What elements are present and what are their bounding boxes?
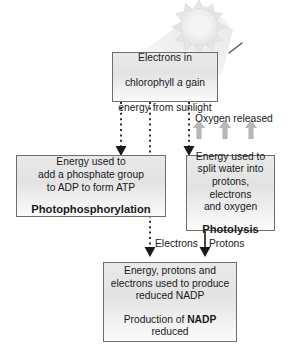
photosynthesis-diagram: Electrons in chlorophyll a gain energy f…: [0, 0, 291, 362]
node-photolysis-term: Photolysis: [202, 223, 259, 236]
nadp-bold: NADP: [187, 314, 216, 325]
label-protons: Protons: [209, 238, 245, 250]
light-ray-tick: [229, 43, 242, 53]
node-electrons-in-chlorophyll: Electrons in chlorophyll a gain energy f…: [112, 52, 218, 102]
node-reduced-nadp: Energy, protons and electrons used to pr…: [103, 262, 237, 342]
node-nadp-term: Production of NADPreduced: [124, 314, 217, 339]
label-oxygen-released: Oxygen released: [195, 113, 273, 125]
node-photophosphorylation: Energy used to add a phosphate group to …: [16, 155, 166, 217]
node-photophosphorylation-term: Photophosphorylation: [31, 203, 150, 216]
node-electrons-text: Electrons in chlorophyll a gain energy f…: [118, 39, 211, 115]
nadp-reduced-word: reduced: [151, 326, 188, 337]
node-photolysis: Energy used to split water into protons,…: [186, 155, 275, 231]
node-photophosphorylation-body: Energy used to add a phosphate group to …: [38, 156, 144, 194]
label-electrons: Electrons: [155, 238, 198, 250]
node-nadp-body: Energy, protons and electrons used to pr…: [111, 265, 230, 303]
node-photolysis-body: Energy used to split water into protons,…: [190, 151, 271, 214]
